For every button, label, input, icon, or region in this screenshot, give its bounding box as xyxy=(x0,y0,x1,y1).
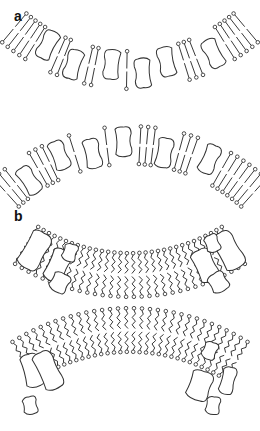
bilayer-a-bottom xyxy=(0,125,260,209)
bilayer-b-top xyxy=(13,225,248,299)
bilayer-b-bottom xyxy=(11,306,250,415)
membrane-diagram xyxy=(0,0,260,431)
bilayer-a-top xyxy=(0,12,259,91)
